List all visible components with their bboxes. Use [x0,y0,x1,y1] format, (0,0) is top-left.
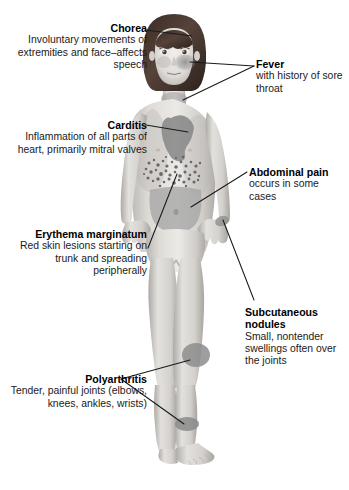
callout-subcutaneous-nodules: Subcutaneous nodules Small, nontender sw… [245,306,345,367]
callout-carditis-body: Inflammation of all parts of heart, prim… [6,131,147,155]
callout-polyarthritis-body: Tender, painful joints (elbows, knees, a… [6,385,147,409]
callout-abdominal-title: Abdominal pain [249,166,347,178]
callout-chorea: Chorea Involuntary movements of extremit… [6,22,147,71]
leader-carditis [146,125,188,132]
callout-chorea-title: Chorea [6,22,147,34]
callout-chorea-body: Involuntary movements of extremities and… [6,34,147,71]
leader-nodules [223,220,254,300]
callout-fever-body: with history of sore throat [256,70,346,94]
leader-abdominal [191,172,247,207]
callout-carditis: Carditis Inflammation of all parts of he… [6,119,147,156]
illustration-canvas: Chorea Involuntary movements of extremit… [0,0,349,490]
callout-erythema-body: Red skin lesions starting on trunk and s… [6,240,147,277]
callout-polyarthritis-title: Polyarthritis [6,373,147,385]
callout-nodules-title: Subcutaneous nodules [245,306,345,331]
callout-fever-title: Fever [256,58,346,70]
leader-fever-throat [183,66,254,100]
callout-polyarthritis: Polyarthritis Tender, painful joints (el… [6,373,147,410]
callout-carditis-title: Carditis [6,119,147,131]
leader-erythema [148,174,177,248]
callout-erythema-title: Erythema marginatum [6,228,147,240]
callout-nodules-body: Small, nontender swellings often over th… [245,331,345,368]
callout-abdominal-body: occurs in some cases [249,178,347,202]
callout-erythema-marginatum: Erythema marginatum Red skin lesions sta… [6,228,147,277]
leader-fever-cheek [190,62,254,66]
callout-abdominal-pain: Abdominal pain occurs in some cases [249,166,347,203]
callout-fever: Fever with history of sore throat [256,58,346,95]
leader-chorea [146,30,192,36]
